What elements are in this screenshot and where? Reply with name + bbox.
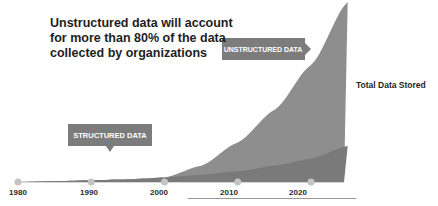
x-tick-marker [234,179,241,186]
x-tick-label: 1980 [9,188,27,197]
x-tick-label: 1990 [80,188,98,197]
x-tick-label: 2010 [220,188,238,197]
x-tick-marker [88,179,95,186]
x-tick-marker [15,179,22,186]
callout-label: STRUCTURED DATA [73,131,147,140]
x-tick-marker [161,179,168,186]
y-axis-label: Total Data Stored [356,80,426,90]
x-tick-marker [308,179,315,186]
x-tick-label: 2020 [289,188,307,197]
structured-data-callout: STRUCTURED DATA [68,124,152,152]
baseline-divider [188,198,356,199]
chart-headline: Unstructured data will account for more … [50,16,250,61]
x-tick-label: 2000 [150,188,168,197]
